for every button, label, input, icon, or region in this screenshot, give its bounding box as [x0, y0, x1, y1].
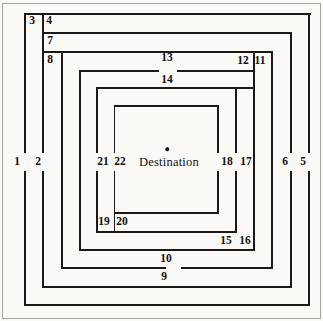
segment-label-13: 13 [161, 52, 173, 64]
spiral-path-segment [253, 51, 255, 251]
spiral-path-segment [42, 171, 44, 288]
spiral-path-segment [79, 249, 255, 251]
segment-label-1: 1 [14, 156, 20, 168]
segment-label-17: 17 [240, 156, 252, 168]
segment-label-3: 3 [29, 15, 35, 27]
segment-label-2: 2 [35, 156, 41, 168]
spiral-path-segment [96, 87, 98, 153]
segment-label-16: 16 [239, 235, 251, 247]
spiral-path-segment [79, 70, 159, 72]
spiral-path-segment [96, 87, 255, 89]
segment-label-22: 22 [114, 156, 126, 168]
spiral-path-segment [42, 13, 44, 153]
segment-label-6: 6 [282, 156, 288, 168]
spiral-path-segment [290, 32, 292, 153]
spiral-path-segment [24, 304, 310, 306]
segment-label-9: 9 [161, 271, 167, 283]
spiral-path-segment [290, 171, 292, 288]
spiral-path-segment [217, 105, 219, 153]
destination-label: Destination [139, 156, 199, 169]
spiral-path-segment [24, 13, 26, 153]
segment-label-10: 10 [160, 253, 172, 265]
spiral-path-segment [42, 51, 273, 53]
spiral-path-segment [271, 51, 273, 269]
spiral-path-segment [114, 105, 116, 153]
spiral-path-segment [96, 231, 237, 233]
spiral-path-segment [114, 105, 219, 107]
segment-label-7: 7 [47, 35, 53, 47]
spiral-path-segment [42, 286, 292, 288]
spiral-path-segment [42, 32, 292, 34]
spiral-path-segment [114, 171, 116, 233]
segment-label-21: 21 [97, 156, 109, 168]
segment-label-8: 8 [47, 54, 53, 66]
spiral-path-segment [217, 171, 219, 214]
spiral-path-segment [79, 70, 81, 251]
spiral-path-segment [308, 171, 310, 306]
spiral-path-segment [308, 13, 310, 153]
segment-label-5: 5 [300, 156, 306, 168]
segment-label-4: 4 [46, 15, 52, 27]
segment-label-19: 19 [98, 216, 110, 228]
segment-label-11: 11 [255, 55, 266, 67]
segment-label-14: 14 [161, 74, 173, 86]
spiral-path-segment [114, 212, 219, 214]
spiral-path-segment [24, 171, 26, 306]
spiral-path-segment [24, 13, 311, 15]
spiral-path-segment [61, 267, 166, 269]
segment-label-18: 18 [221, 156, 233, 168]
segment-label-12: 12 [237, 55, 249, 67]
spiral-path-segment [235, 171, 237, 233]
spiral-path-segment [61, 51, 63, 269]
segment-label-20: 20 [116, 216, 128, 228]
spiral-search-diagram: 12345678910111213141516171819202122 Dest… [0, 0, 323, 321]
spiral-path-segment [177, 70, 255, 72]
destination-dot [165, 147, 169, 151]
segment-label-15: 15 [220, 235, 232, 247]
spiral-path-segment [235, 87, 237, 153]
spiral-path-segment [181, 267, 273, 269]
